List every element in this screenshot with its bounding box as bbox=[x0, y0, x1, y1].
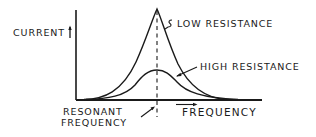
current-arrow-icon bbox=[68, 26, 71, 39]
resonance-diagram: CURRENT LOW RESISTANCE HIGH RESISTANCE R… bbox=[0, 0, 316, 137]
x-axis-label: FREQUENCY bbox=[182, 107, 257, 118]
y-axis-label: CURRENT bbox=[13, 28, 65, 38]
resonant-frequency-label-line1: RESONANT bbox=[63, 107, 123, 117]
low-resistance-leader bbox=[165, 20, 172, 29]
high-resistance-curve bbox=[86, 70, 238, 100]
high-resistance-leader bbox=[176, 67, 197, 77]
low-resistance-label: LOW RESISTANCE bbox=[177, 19, 273, 29]
resonant-frequency-leader bbox=[141, 107, 155, 118]
high-resistance-label: HIGH RESISTANCE bbox=[200, 62, 300, 72]
resonant-frequency-label-line2: FREQUENCY bbox=[61, 118, 127, 128]
